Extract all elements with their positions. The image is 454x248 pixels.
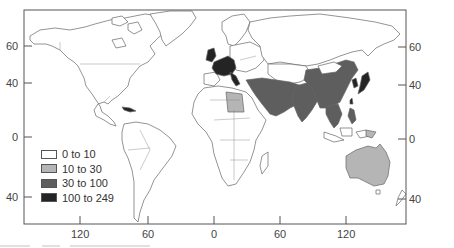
western-europe <box>212 56 236 76</box>
right-axis-label-40: 40 <box>409 79 421 91</box>
libya <box>226 92 244 112</box>
indonesia <box>324 132 344 142</box>
right-axis-label-40-south: 40 <box>409 193 421 205</box>
left-axis-ticks <box>24 46 32 197</box>
scandinavia <box>222 14 250 46</box>
russia <box>248 14 400 66</box>
legend-label: 30 to 100 <box>62 177 108 189</box>
southeast-asia <box>326 104 342 128</box>
new-zealand <box>396 190 406 206</box>
japan <box>358 72 370 94</box>
bottom-axis-label-60e: 60 <box>274 228 286 240</box>
legend-swatch-100-249 <box>41 193 57 202</box>
uk <box>206 48 216 62</box>
legend-item: 100 to 249 <box>41 191 114 206</box>
legend-label: 0 to 10 <box>62 148 96 160</box>
legend-item: 0 to 10 <box>41 147 114 162</box>
bottom-axis-ticks <box>80 216 346 224</box>
figure-caption-cutoff <box>0 243 454 248</box>
philippines <box>348 108 356 124</box>
north-america <box>30 14 170 126</box>
right-axis-ticks <box>398 47 406 199</box>
australia <box>346 144 390 186</box>
left-axis-label-40-south: 40 <box>6 191 18 203</box>
italy <box>230 72 240 86</box>
legend-label: 10 to 30 <box>62 163 102 175</box>
madagascar <box>260 152 268 174</box>
left-axis-label-60: 60 <box>6 40 18 52</box>
bottom-axis-label-0: 0 <box>211 228 217 240</box>
legend-swatch-30-100 <box>41 179 57 188</box>
left-axis-label-0: 0 <box>12 131 18 143</box>
world-choropleth-map: 60 40 0 40 60 40 0 40 120 60 0 60 120 0 … <box>0 0 454 248</box>
legend-item: 10 to 30 <box>41 162 114 177</box>
map-legend: 0 to 10 10 to 30 30 to 100 100 to 249 <box>41 147 114 205</box>
right-axis-label-60: 60 <box>409 41 421 53</box>
left-axis-label-40: 40 <box>6 77 18 89</box>
taiwan <box>350 98 353 104</box>
tasmania <box>376 190 380 194</box>
bottom-axis-label-120e: 120 <box>337 228 355 240</box>
cuba <box>122 107 136 112</box>
south-america <box>122 122 176 222</box>
map-canvas <box>0 0 454 248</box>
legend-item: 30 to 100 <box>41 176 114 191</box>
korea <box>352 78 358 88</box>
legend-swatch-10-30 <box>41 164 57 173</box>
legend-swatch-0-10 <box>41 150 57 159</box>
right-axis-label-0: 0 <box>409 133 415 145</box>
bottom-axis-label-60w: 60 <box>142 228 154 240</box>
legend-label: 100 to 249 <box>62 192 114 204</box>
bottom-axis-label-120w: 120 <box>71 228 89 240</box>
